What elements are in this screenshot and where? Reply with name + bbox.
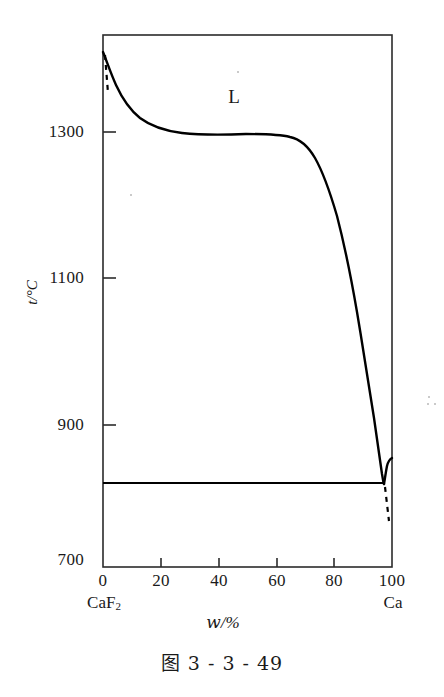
scan-speck bbox=[130, 194, 132, 196]
figure-caption: 图 3 - 3 - 49 bbox=[0, 648, 444, 675]
x-tick-label-60: 60 bbox=[257, 572, 297, 589]
x-axis-title-rest: /% bbox=[221, 613, 240, 632]
scan-speck bbox=[434, 403, 436, 405]
scan-speck bbox=[428, 396, 430, 398]
y-tick-label-700: 700 bbox=[22, 551, 84, 568]
figure-root: 1300 1100 900 700 0 20 40 60 80 100 CaF2… bbox=[0, 0, 444, 697]
x-tick-label-20: 20 bbox=[141, 572, 181, 589]
scan-speck bbox=[427, 403, 429, 405]
x-tick-label-40: 40 bbox=[199, 572, 239, 589]
left-endpoint-subscript: 2 bbox=[115, 600, 121, 612]
x-axis-title: w/% bbox=[178, 614, 268, 631]
left-endpoint-label: CaF2 bbox=[73, 594, 135, 612]
right-endpoint-label: Ca bbox=[362, 594, 424, 611]
y-tick-label-900: 900 bbox=[22, 416, 84, 433]
scan-speck bbox=[237, 71, 239, 73]
left-endpoint-formula: CaF bbox=[87, 593, 115, 612]
liquid-region-label: L bbox=[219, 87, 249, 106]
x-tick-label-100: 100 bbox=[372, 572, 412, 589]
x-tick-label-0: 0 bbox=[83, 572, 123, 589]
x-axis-title-symbol: w bbox=[206, 612, 221, 632]
y-tick-label-1300: 1300 bbox=[22, 123, 84, 140]
plot-frame bbox=[103, 35, 392, 567]
y-axis-title: t/°C bbox=[25, 267, 40, 319]
x-tick-label-80: 80 bbox=[314, 572, 354, 589]
